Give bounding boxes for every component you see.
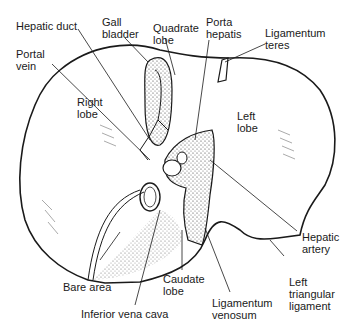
label-bare-area: Bare area xyxy=(63,281,111,293)
label-hepatic-artery: Hepatic artery xyxy=(302,231,339,255)
label-left-triangular-ligament: Left triangular ligament xyxy=(289,276,335,312)
gall-bladder-shape xyxy=(145,58,172,146)
label-hepatic-duct: Hepatic duct xyxy=(16,20,77,32)
label-ligamentum-teres: Ligamentum teres xyxy=(265,27,326,51)
label-porta-hepatis: Porta hepatis xyxy=(206,16,241,40)
label-inferior-vena-cava: Inferior vena cava xyxy=(81,308,168,320)
label-quadrate-lobe: Quadrate lobe xyxy=(153,22,199,46)
label-left-lobe: Left lobe xyxy=(237,110,258,134)
label-caudate-lobe: Caudate lobe xyxy=(163,273,205,297)
label-gall-bladder: Gall bladder xyxy=(102,16,139,40)
label-right-lobe: Right lobe xyxy=(77,96,103,120)
label-ligamentum-venosum: Ligamentum venosum xyxy=(212,297,273,321)
label-portal-vein: Portal vein xyxy=(16,48,45,72)
